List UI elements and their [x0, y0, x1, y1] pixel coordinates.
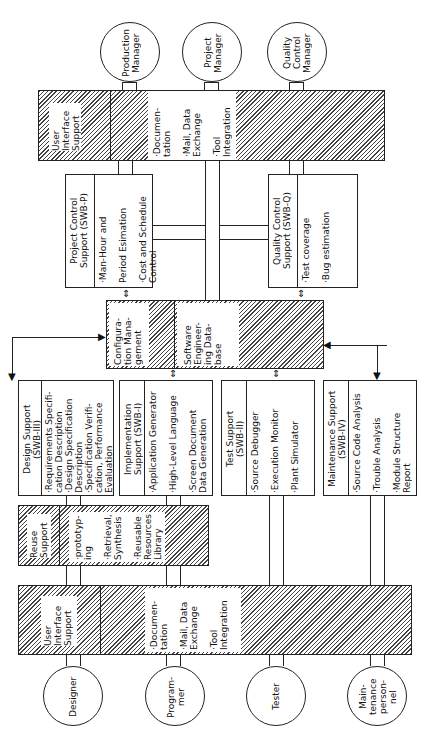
bidirectional-arrow-icon: ⇕ — [169, 369, 177, 379]
maintenance-personnel-label: Main- tenance person- nel — [358, 673, 398, 721]
top-ui-items: ·Documen- tation ·Mail, Data Exchange ·T… — [152, 97, 232, 157]
connector — [219, 239, 268, 240]
connector — [269, 496, 270, 586]
design-support-items: ·Requirements Specifi- cation Descriptio… — [44, 383, 114, 493]
divider — [348, 381, 349, 495]
connector — [66, 566, 67, 586]
connector — [12, 337, 100, 338]
connector — [152, 225, 205, 226]
reuse-support-title: Reuse Support — [29, 514, 49, 558]
bidirectional-arrow-icon: ⇕ — [297, 289, 305, 299]
project-manager-node: Project Manager — [182, 22, 242, 82]
connector — [132, 161, 133, 174]
connector — [166, 655, 167, 666]
reuse-items-panel: ·prototyp- ing ·Retrieval, Synthesis ·Re… — [69, 512, 165, 562]
divider — [246, 381, 247, 495]
top-user-interface-support: User Interface Support ·Documen- tation … — [38, 90, 385, 161]
se-database-label: Software Engineer- ing Data- base — [183, 305, 223, 365]
config-management-panel: Configura- tion Mana- gement — [109, 303, 149, 366]
connector — [370, 496, 371, 586]
connector — [303, 161, 304, 174]
quality-control-manager-label: Quality Control Manager — [282, 29, 312, 77]
connector — [283, 496, 284, 586]
production-manager-node: Production Manager — [100, 22, 160, 82]
tester-node: Tester — [246, 666, 306, 726]
bidirectional-arrow-icon: ⇕ — [272, 369, 280, 379]
reuse-title-panel: Reuse Support — [27, 514, 51, 558]
designer-label: Designer — [68, 675, 78, 719]
divider — [41, 381, 42, 495]
maintenance-support-items: ·Source Code Analysis ·Trouble Analysis … — [352, 383, 412, 493]
maintenance-support: Maintenance Support (SWB-IV) ·Source Cod… — [323, 380, 417, 496]
design-support-title: Design Support (SWB-III) — [22, 385, 42, 493]
bottom-ui-items: ·Documen- tation ·Mail, Data Exchange ·T… — [149, 590, 229, 650]
quality-control-title: Quality Control Support (SWB-Q) — [272, 179, 292, 283]
connector — [166, 566, 167, 586]
top-ui-title: User Interface Support — [51, 103, 81, 151]
maintenance-support-title: Maintenance Support (SWB-IV) — [327, 385, 347, 493]
bottom-ui-items-panel: ·Documen- tation ·Mail, Data Exchange ·T… — [145, 588, 241, 652]
divider — [94, 175, 95, 287]
connector — [180, 655, 181, 666]
implementation-support-title: Implementation Support (SWB-I) — [123, 385, 143, 493]
connector — [384, 496, 385, 586]
divider — [100, 586, 101, 654]
connector — [330, 345, 387, 346]
quality-control-items: ·Test coverage ·Bug estimation — [301, 179, 331, 283]
connector — [80, 655, 81, 666]
bottom-ui-title: User Interface Support — [43, 596, 73, 646]
implementation-support-items: ·Application Generator ·High-Level Langu… — [148, 383, 208, 493]
se-database-panel: Software Engineer- ing Data- base — [177, 303, 239, 366]
designer-node: Designer — [43, 666, 103, 726]
connector — [289, 82, 303, 83]
connector — [219, 225, 268, 226]
tester-label: Tester — [271, 675, 281, 719]
center-repository: Configura- tion Mana- gement Software En… — [106, 300, 324, 369]
arrow-left-icon: ◀ — [323, 340, 331, 350]
connector — [283, 655, 284, 666]
bottom-ui-title-panel: User Interface Support — [41, 596, 77, 646]
production-manager-label: Production Manager — [121, 29, 141, 77]
connector — [377, 345, 378, 373]
divider — [174, 301, 175, 368]
connector — [80, 566, 81, 586]
divider — [59, 506, 60, 565]
top-ui-title-panel: User Interface Support — [49, 103, 81, 151]
implementation-support: Implementation Support (SWB-I) ·Applicat… — [119, 380, 213, 496]
connector — [152, 239, 205, 240]
reuse-support: Reuse Support ·prototyp- ing ·Retrieval,… — [18, 505, 209, 566]
connector — [122, 82, 136, 83]
connector — [180, 566, 181, 586]
connector — [219, 161, 220, 301]
design-support: Design Support (SWB-III) ·Requirements S… — [18, 380, 114, 496]
divider — [110, 91, 111, 160]
divider — [297, 175, 298, 287]
project-control-support: Project Control Support (SWB-P) ·Man-Hou… — [65, 174, 153, 288]
quality-control-support: Quality Control Support (SWB-Q) ·Test co… — [268, 174, 358, 288]
connector — [66, 655, 67, 666]
project-control-title: Project Control Support (SWB-P) — [69, 179, 89, 283]
test-support-items: ·Source Debugger ·Execution Monitor ·Pla… — [250, 383, 300, 493]
programmer-node: Program- mer — [145, 666, 205, 726]
top-ui-items-panel: ·Documen- tation ·Mail, Data Exchange ·T… — [148, 91, 236, 160]
project-manager-label: Project Manager — [203, 29, 223, 77]
programmer-label: Program- mer — [166, 675, 186, 719]
arrow-down-icon: ▼ — [8, 372, 16, 382]
reuse-support-items: ·prototyp- ing ·Retrieval, Synthesis ·Re… — [73, 512, 163, 560]
divider — [144, 381, 145, 495]
test-support-title: Test Support (SWB-II) — [225, 385, 245, 493]
config-management-label: Configura- tion Mana- gement — [113, 305, 143, 365]
project-control-items: ·Man-Hour and Period Esimation ·Cost and… — [98, 179, 158, 283]
connector — [118, 161, 119, 174]
connector — [384, 655, 385, 666]
connector — [205, 161, 206, 301]
connector — [269, 655, 270, 666]
connector — [289, 161, 290, 174]
connector — [370, 655, 371, 666]
quality-control-manager-node: Quality Control Manager — [267, 22, 327, 82]
test-support: Test Support (SWB-II) ·Source Debugger ·… — [221, 380, 315, 496]
bottom-user-interface-support: User Interface Support ·Documen- tation … — [18, 585, 412, 655]
connector — [204, 82, 218, 83]
arrow-right-icon: ▶ — [98, 332, 106, 342]
maintenance-personnel-node: Main- tenance person- nel — [347, 666, 407, 726]
